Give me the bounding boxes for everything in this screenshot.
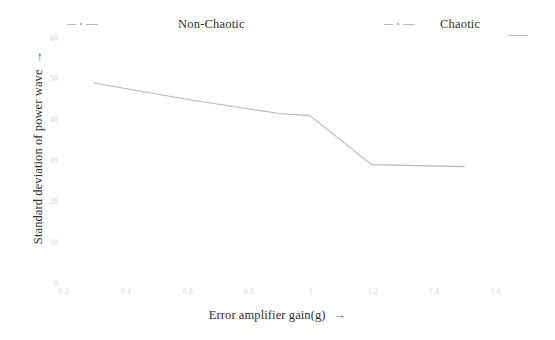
y-axis-title: Standard deviation of power wave→ [31,33,46,263]
data-series-line [63,38,495,283]
y-axis-title-text: Standard deviation of power wave [31,69,45,244]
x-axis-title: Error amplifier gain(g)→ [0,308,555,323]
x-tick-label: 1 [296,287,326,296]
x-tick-label: 1.2 [358,287,388,296]
x-axis-arrow-icon: → [334,308,347,323]
x-tick-label: 0.4 [111,287,141,296]
x-axis-title-text: Error amplifier gain(g) [209,308,326,322]
x-tick-label: 0.6 [173,287,203,296]
x-tick-label: 0.2 [49,287,79,296]
x-tick-label: 0.8 [234,287,264,296]
plot-area [63,38,495,283]
x-tick-label: 1.6 [481,287,511,296]
y-axis-arrow-icon: → [31,51,46,64]
chart-figure: Non-Chaotic Chaotic 60 50 40 30 20 10 0 … [0,0,555,340]
x-tick-label: 1.4 [419,287,449,296]
